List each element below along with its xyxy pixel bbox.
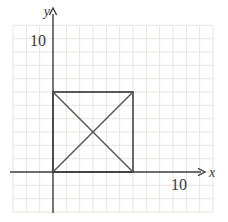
y-tick-label-10: 10 xyxy=(30,32,46,49)
y-axis-arrow-icon xyxy=(49,8,56,15)
y-axis-label: y xyxy=(42,4,51,19)
x-axis-label: x xyxy=(208,165,216,180)
figure-canvas: xy1010 xyxy=(0,0,228,222)
coordinate-plane-figure: xy1010 xyxy=(0,0,228,222)
x-tick-label-10: 10 xyxy=(171,176,187,193)
